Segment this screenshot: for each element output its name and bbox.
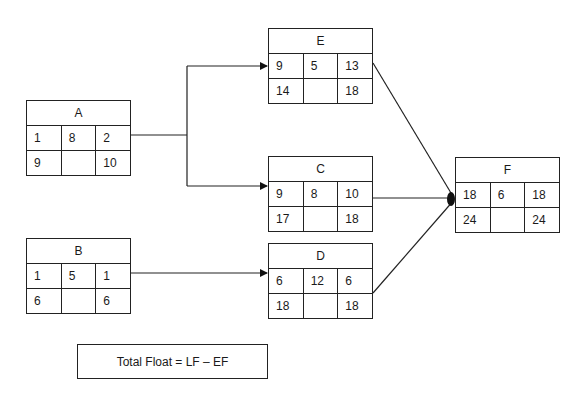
- early-finish: 18: [524, 183, 559, 207]
- late-finish: 18: [337, 79, 372, 103]
- edge-d-f: [373, 200, 454, 293]
- early-finish: 1: [95, 264, 130, 288]
- early-start: 18: [456, 183, 490, 207]
- early-finish: 10: [337, 182, 372, 206]
- node-b: B 151 66: [26, 238, 131, 314]
- node-e: E 9513 1418: [268, 28, 373, 104]
- late-finish: 18: [337, 294, 372, 318]
- early-start: 1: [27, 126, 61, 150]
- edge-e-f: [373, 63, 454, 198]
- duration: 5: [61, 264, 96, 288]
- duration: 8: [61, 126, 96, 150]
- early-finish: 2: [95, 126, 130, 150]
- edge-a-branch: [130, 66, 187, 186]
- late-start: 6: [27, 289, 61, 313]
- float: [303, 79, 338, 103]
- node-label: B: [27, 239, 130, 264]
- late-finish: 10: [95, 151, 130, 175]
- node-label: E: [269, 29, 372, 54]
- node-label: D: [269, 244, 372, 269]
- node-a: A 182 910: [26, 100, 131, 176]
- duration: 8: [303, 182, 338, 206]
- late-finish: 6: [95, 289, 130, 313]
- early-finish: 13: [337, 54, 372, 78]
- late-start: 24: [456, 208, 490, 232]
- float: [303, 207, 338, 231]
- node-c: C 9810 1718: [268, 156, 373, 232]
- early-start: 9: [269, 182, 303, 206]
- late-finish: 24: [524, 208, 559, 232]
- float: [61, 289, 96, 313]
- early-start: 6: [269, 269, 303, 293]
- float: [490, 208, 525, 232]
- late-start: 18: [269, 294, 303, 318]
- late-start: 9: [27, 151, 61, 175]
- node-f: F 18618 2424: [455, 157, 560, 233]
- node-label: A: [27, 101, 130, 126]
- duration: 6: [490, 183, 525, 207]
- merge-arrowhead-icon: [447, 192, 455, 206]
- float: [61, 151, 96, 175]
- total-float-formula: Total Float = LF – EF: [77, 344, 268, 379]
- late-finish: 18: [337, 207, 372, 231]
- late-start: 17: [269, 207, 303, 231]
- node-d: D 6126 1818: [268, 243, 373, 319]
- duration: 5: [303, 54, 338, 78]
- early-start: 9: [269, 54, 303, 78]
- node-label: F: [456, 158, 559, 183]
- early-start: 1: [27, 264, 61, 288]
- late-start: 14: [269, 79, 303, 103]
- early-finish: 6: [337, 269, 372, 293]
- float: [303, 294, 338, 318]
- node-label: C: [269, 157, 372, 182]
- duration: 12: [303, 269, 338, 293]
